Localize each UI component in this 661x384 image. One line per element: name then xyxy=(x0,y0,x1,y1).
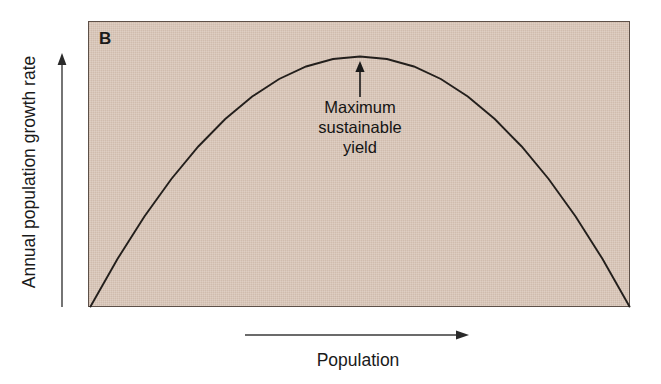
right-arrow-icon xyxy=(245,328,469,342)
x-axis-label: Population xyxy=(238,349,478,371)
plot-area: B Maximum sustainable yield xyxy=(88,21,630,307)
figure-panel-b: Annual population growth rate B Maximum … xyxy=(0,0,661,384)
up-arrow-icon xyxy=(55,53,69,307)
annotation-line-3: yield xyxy=(267,137,453,157)
annotation-maximum-sustainable-yield: Maximum sustainable yield xyxy=(267,97,453,157)
annotation-line-2: sustainable xyxy=(267,117,453,137)
y-axis-label: Annual population growth rate xyxy=(9,22,49,322)
y-axis-group: Annual population growth rate xyxy=(0,0,88,384)
annotation-up-arrow-icon xyxy=(353,61,367,97)
annotation-line-1: Maximum xyxy=(267,97,453,117)
